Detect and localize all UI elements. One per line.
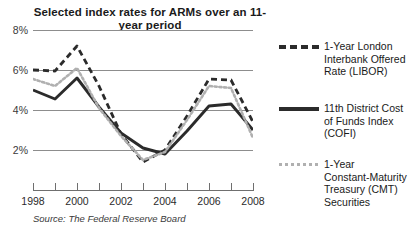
y-axis-label: 6% xyxy=(13,64,28,76)
series-line-2 xyxy=(33,68,253,160)
series-line-1 xyxy=(33,78,253,154)
legend-label-line: (COFI) xyxy=(324,127,403,140)
legend-item-0[interactable]: 1-Year LondonInterbank OfferedRate (LIBO… xyxy=(279,40,406,78)
x-axis-tick xyxy=(231,183,232,191)
x-axis-tick xyxy=(77,183,78,191)
x-axis-label: 2008 xyxy=(241,195,264,207)
legend-label-line: Securities xyxy=(324,196,407,209)
legend-label-line: Constant-Maturity xyxy=(324,171,407,184)
x-axis-label: 2006 xyxy=(197,195,220,207)
legend-label: 1-Year LondonInterbank OfferedRate (LIBO… xyxy=(324,40,406,78)
x-axis-tick xyxy=(143,183,144,191)
series-svg xyxy=(33,30,253,170)
legend-label: 11th District Costof Funds Index(COFI) xyxy=(324,102,403,140)
y-axis-label: 4% xyxy=(13,104,28,116)
legend-label-line: of Funds Index xyxy=(324,115,403,128)
x-axis-tick xyxy=(209,183,210,191)
legend-label-line: 11th District Cost xyxy=(324,102,403,115)
legend-label-line: Treasury (CMT) xyxy=(324,183,407,196)
legend-label-line: Interbank Offered xyxy=(324,53,406,66)
source-note: Source: The Federal Reserve Board xyxy=(33,213,186,224)
legend-item-2[interactable]: 1-YearConstant-MaturityTreasury (CMT)Sec… xyxy=(279,158,407,208)
chart-figure: Selected index rates for ARMs over an 11… xyxy=(0,0,412,240)
series-layer xyxy=(33,30,253,170)
x-axis-label: 2002 xyxy=(109,195,132,207)
x-axis-tick xyxy=(165,183,166,191)
x-axis-label: 2000 xyxy=(65,195,88,207)
x-axis-tick xyxy=(121,183,122,191)
legend-label-line: Rate (LIBOR) xyxy=(324,65,406,78)
legend-label: 1-YearConstant-MaturityTreasury (CMT)Sec… xyxy=(324,158,407,208)
x-axis-tick xyxy=(33,183,34,191)
legend-label-line: 1-Year xyxy=(324,158,407,171)
plot-area: 2%4%6%8% xyxy=(33,30,253,170)
x-axis-tick xyxy=(99,183,100,191)
x-axis-label: 2004 xyxy=(153,195,176,207)
x-axis-label: 1998 xyxy=(21,195,44,207)
x-axis-tick xyxy=(55,183,56,191)
legend-swatch-dashed-icon xyxy=(279,40,319,52)
legend-swatch-solid-icon xyxy=(279,102,319,114)
legend-label-line: 1-Year London xyxy=(324,40,406,53)
x-axis-tick xyxy=(187,183,188,191)
legend-item-1[interactable]: 11th District Costof Funds Index(COFI) xyxy=(279,102,403,140)
y-axis-label: 8% xyxy=(13,24,28,36)
y-axis-label: 2% xyxy=(13,144,28,156)
chart-title-line-1: Selected index rates for ARMs xyxy=(34,6,202,18)
legend-swatch-dotted-icon xyxy=(279,158,319,170)
x-axis-tick xyxy=(253,183,254,191)
chart-title: Selected index rates for ARMs over an 11… xyxy=(30,6,270,32)
